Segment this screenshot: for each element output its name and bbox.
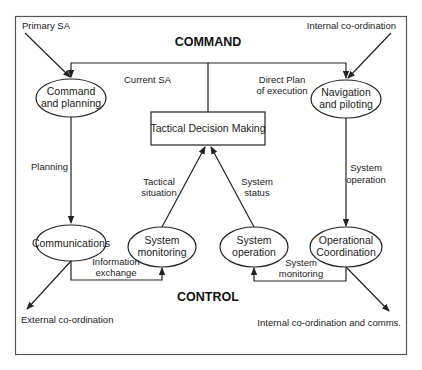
svg-text:Navigation: Navigation — [321, 86, 371, 98]
label-system-monitoring-1: System — [285, 257, 317, 268]
label-internal-coordination: Internal co-ordination — [307, 20, 396, 31]
node-operational-coordination: Operational Coordination — [310, 227, 382, 267]
node-command-planning: Command and planning — [36, 79, 106, 117]
label-information-exchange-1: Information — [92, 256, 140, 267]
label-system-operation-2: operation — [346, 174, 386, 185]
label-direct-plan-2: of execution — [256, 85, 307, 96]
svg-text:System: System — [236, 234, 271, 246]
control-title: CONTROL — [177, 290, 239, 304]
label-system-status-1: System — [241, 176, 273, 187]
node-tactical-decision-making: Tactical Decision Making — [151, 112, 266, 145]
command-title: COMMAND — [175, 35, 242, 49]
label-tactical-situation-1: Tactical — [143, 176, 175, 187]
label-planning: Planning — [31, 161, 68, 172]
svg-text:Communications: Communications — [32, 237, 110, 249]
arrow-internal-coordination-comms — [346, 267, 389, 311]
svg-text:monitoring: monitoring — [137, 246, 186, 258]
svg-text:Tactical Decision Making: Tactical Decision Making — [151, 122, 266, 134]
node-navigation-piloting: Navigation and piloting — [311, 80, 381, 118]
label-information-exchange-2: exchange — [95, 267, 136, 278]
arrow-primary-sa — [25, 33, 70, 77]
svg-text:Operational: Operational — [319, 234, 373, 246]
svg-text:and planning: and planning — [41, 97, 101, 109]
svg-text:Command: Command — [47, 85, 96, 97]
arrow-internal-coordination — [348, 33, 391, 78]
arrow-external-coordination — [27, 261, 71, 309]
command-control-diagram: COMMAND CONTROL Primary SA Internal co-o… — [0, 0, 422, 370]
node-system-operation: System operation — [220, 227, 288, 267]
label-system-monitoring-2: monitoring — [279, 268, 323, 279]
label-internal-coordination-comms: Internal co-ordination and comms. — [257, 317, 401, 328]
label-system-operation-1: System — [350, 162, 382, 173]
label-external-coordination: External co-ordination — [21, 314, 113, 325]
label-system-status-2: status — [244, 187, 270, 198]
label-current-sa: Current SA — [124, 74, 172, 85]
svg-text:and piloting: and piloting — [319, 98, 373, 110]
svg-text:Coordination: Coordination — [316, 246, 376, 258]
svg-text:operation: operation — [232, 246, 276, 258]
svg-text:System: System — [144, 234, 179, 246]
label-primary-sa: Primary SA — [22, 20, 71, 31]
label-tactical-situation-2: situation — [141, 187, 176, 198]
label-direct-plan-1: Direct Plan — [259, 74, 305, 85]
